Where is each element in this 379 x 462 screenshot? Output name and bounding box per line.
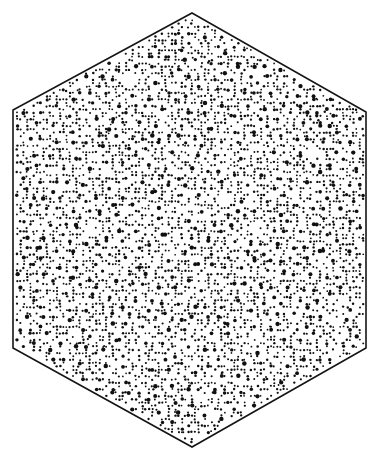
small-dot (197, 114, 199, 116)
small-dot (128, 167, 130, 169)
small-dot (191, 52, 193, 54)
small-dot (286, 204, 288, 206)
small-dot (147, 149, 149, 151)
small-dot (303, 269, 305, 271)
small-dot (89, 135, 91, 137)
small-dot (250, 56, 252, 58)
large-dot (101, 269, 104, 272)
large-dot (321, 249, 325, 253)
small-dot (210, 95, 212, 97)
small-dot (184, 286, 186, 288)
small-dot (312, 213, 314, 215)
large-dot (196, 262, 200, 266)
small-dot (197, 323, 199, 325)
small-dot (82, 250, 84, 252)
small-dot (315, 214, 317, 216)
small-dot (63, 165, 65, 167)
small-dot (204, 72, 206, 74)
small-dot (260, 319, 262, 321)
small-dot (335, 141, 337, 143)
large-dot (223, 266, 226, 269)
small-dot (286, 264, 288, 266)
small-dot (237, 181, 239, 183)
large-dot (311, 207, 315, 211)
small-dot (283, 204, 285, 206)
small-dot (167, 204, 169, 206)
small-dot (29, 178, 31, 180)
small-dot (181, 42, 183, 44)
small-dot (62, 148, 64, 150)
small-dot (167, 395, 169, 397)
small-dot (66, 260, 68, 262)
small-dot (171, 39, 173, 41)
small-dot (115, 145, 117, 147)
small-dot (221, 371, 223, 373)
small-dot (125, 132, 127, 134)
large-dot (103, 364, 108, 369)
small-dot (121, 398, 123, 400)
large-dot (101, 347, 105, 351)
small-dot (303, 112, 305, 114)
small-dot (326, 244, 328, 246)
large-dot (358, 183, 362, 187)
large-dot (128, 312, 132, 316)
small-dot (233, 72, 235, 74)
small-dot (157, 375, 159, 377)
small-dot (188, 121, 190, 123)
small-dot (132, 53, 134, 55)
small-dot (92, 181, 94, 183)
small-dot (269, 171, 271, 173)
large-dot (127, 391, 131, 395)
small-dot (152, 280, 154, 282)
small-dot (88, 296, 90, 298)
small-dot (343, 260, 345, 262)
small-dot (108, 220, 110, 222)
small-dot (72, 108, 74, 110)
small-dot (34, 261, 36, 263)
small-dot (168, 200, 170, 202)
small-dot (322, 353, 324, 355)
small-dot (115, 174, 117, 176)
small-dot (237, 333, 239, 335)
large-dot (292, 273, 296, 277)
small-dot (227, 342, 229, 344)
small-dot (25, 227, 27, 229)
small-dot (145, 89, 147, 91)
small-dot (198, 431, 200, 433)
small-dot (323, 180, 325, 182)
small-dot (174, 50, 176, 52)
small-dot (208, 49, 210, 51)
small-dot (188, 135, 191, 138)
large-dot (220, 104, 224, 108)
small-dot (218, 398, 220, 400)
small-dot (349, 223, 351, 225)
small-dot (20, 211, 22, 213)
large-dot (32, 341, 36, 345)
large-dot (286, 286, 290, 290)
small-dot (171, 174, 173, 176)
small-dot (214, 200, 216, 202)
small-dot (257, 270, 259, 272)
small-dot (253, 181, 255, 183)
large-dot (282, 229, 286, 233)
small-dot (174, 352, 176, 354)
small-dot (19, 322, 21, 324)
small-dot (300, 342, 302, 344)
small-dot (169, 321, 171, 323)
small-dot (92, 72, 95, 75)
small-dot (171, 43, 174, 46)
small-dot (329, 278, 331, 280)
small-dot (207, 256, 210, 259)
large-dot (253, 259, 257, 263)
small-dot (211, 401, 213, 403)
small-dot (65, 191, 67, 193)
small-dot (197, 95, 199, 97)
small-dot (184, 152, 186, 154)
small-dot (154, 105, 156, 107)
small-dot (224, 178, 226, 180)
small-dot (277, 372, 279, 374)
small-dot (296, 339, 298, 341)
large-dot (289, 256, 292, 259)
small-dot (359, 253, 361, 255)
small-dot (105, 325, 107, 327)
